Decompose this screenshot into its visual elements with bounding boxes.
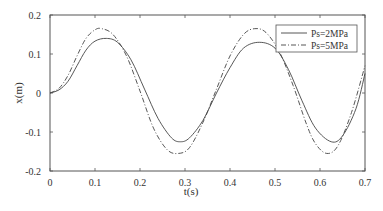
- y-tick-label: -0.2: [25, 166, 41, 177]
- x-tick-label: 0.2: [134, 177, 147, 188]
- y-tick-label: 0.1: [29, 49, 42, 60]
- legend: Ps=2MPa Ps=5MPa: [276, 25, 357, 52]
- x-tick-label: 0.4: [224, 177, 237, 188]
- x-tick-label: 0.5: [269, 177, 282, 188]
- x-tick-label: 0.6: [314, 177, 327, 188]
- y-tick-label: 0.2: [29, 10, 42, 21]
- y-axis-label: x(m): [12, 82, 25, 104]
- y-tick-label: -0.1: [25, 127, 41, 138]
- legend-label-ps5: Ps=5MPa: [311, 41, 349, 51]
- legend-label-ps2: Ps=2MPa: [311, 29, 349, 39]
- y-tick-label: 0: [36, 88, 41, 99]
- line-chart: 0.20.10-0.1-0.2 00.10.20.30.40.50.60.7 t…: [0, 0, 383, 211]
- x-tick-label: 0.7: [359, 177, 372, 188]
- series-ps2-line: [50, 38, 365, 142]
- x-tick-label: 0: [48, 177, 53, 188]
- x-axis-label: t(s): [184, 185, 199, 198]
- x-tick-label: 0.1: [89, 177, 102, 188]
